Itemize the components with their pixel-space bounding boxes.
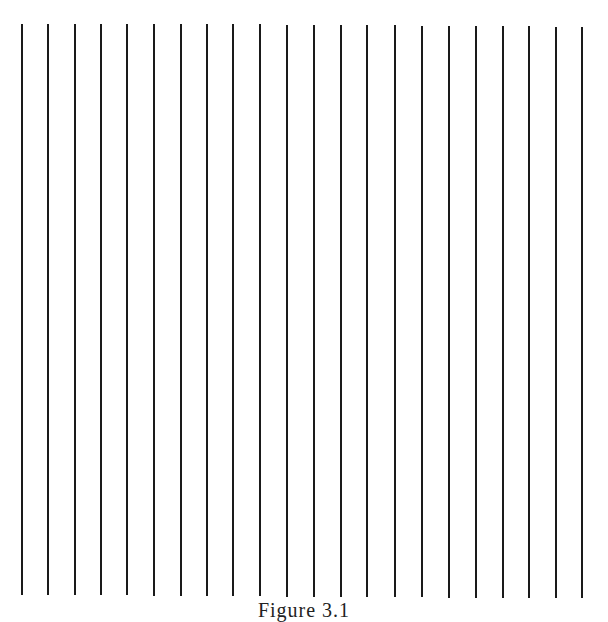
vertical-line xyxy=(340,25,342,597)
vertical-line xyxy=(74,24,76,595)
vertical-line xyxy=(528,26,530,598)
vertical-line xyxy=(581,27,583,598)
vertical-line xyxy=(153,24,155,596)
vertical-line xyxy=(180,24,182,596)
vertical-line xyxy=(286,25,288,597)
vertical-line xyxy=(475,26,477,598)
vertical-line xyxy=(421,26,423,597)
figure-caption: Figure 3.1 xyxy=(0,598,608,622)
vertical-line xyxy=(555,27,557,598)
vertical-line xyxy=(21,24,23,595)
vertical-line xyxy=(47,24,49,595)
vertical-line xyxy=(313,25,315,597)
vertical-line xyxy=(448,26,450,598)
vertical-line xyxy=(126,24,128,595)
vertical-line xyxy=(100,24,102,595)
vertical-line xyxy=(206,24,208,596)
vertical-line xyxy=(502,26,504,598)
vertical-line xyxy=(366,25,368,597)
vertical-line xyxy=(232,24,234,596)
vertical-line xyxy=(394,25,396,597)
vertical-line xyxy=(259,24,261,596)
